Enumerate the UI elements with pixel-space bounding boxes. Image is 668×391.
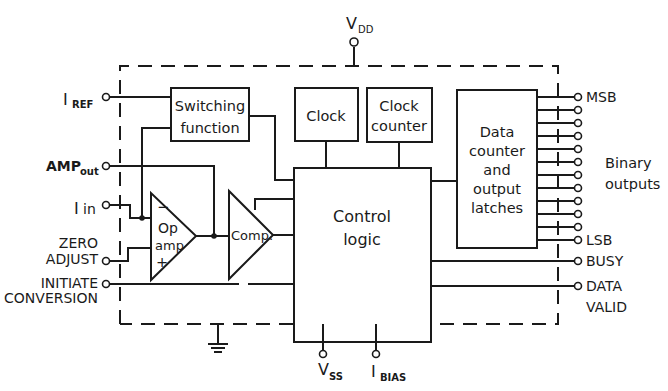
op-amp: − Op amp + xyxy=(151,193,196,280)
lsb-label: LSB xyxy=(586,232,612,248)
svg-text:counter: counter xyxy=(469,143,525,159)
svg-text:Data: Data xyxy=(480,124,515,140)
svg-text:Switching: Switching xyxy=(175,98,245,114)
svg-text:Binary: Binary xyxy=(605,155,652,171)
svg-text:ZERO: ZERO xyxy=(59,235,98,251)
ground-symbol xyxy=(208,324,228,352)
svg-text:out: out xyxy=(80,166,99,177)
svg-text:output: output xyxy=(473,181,521,197)
svg-text:and: and xyxy=(483,162,510,178)
svg-text:V: V xyxy=(318,360,329,379)
svg-text:Comp.: Comp. xyxy=(231,228,273,243)
adc-block-diagram: V DD Switching function Clock Clock coun… xyxy=(0,0,668,391)
data-counter-block: Data counter and output latches xyxy=(457,90,537,248)
svg-text:function: function xyxy=(180,120,239,136)
initiate-conversion-label: INITIATE CONVERSION xyxy=(4,275,98,306)
control-logic-block: Control logic xyxy=(294,168,431,342)
switching-function-block: Switching function xyxy=(171,88,249,141)
svg-text:Op: Op xyxy=(158,220,178,236)
data-valid-label: DATA VALID xyxy=(586,278,627,315)
clock-block: Clock xyxy=(295,88,358,141)
zero-adjust-label: ZERO ADJUST xyxy=(46,235,99,267)
svg-text:AMP: AMP xyxy=(46,158,81,174)
svg-text:ADJUST: ADJUST xyxy=(46,251,99,267)
msb-label: MSB xyxy=(586,89,617,105)
svg-text:I: I xyxy=(74,199,79,218)
iref-label: I REF xyxy=(63,90,93,110)
svg-text:Clock: Clock xyxy=(379,98,419,114)
svg-text:+: + xyxy=(156,254,168,270)
input-pins xyxy=(103,94,110,288)
ampout-label: AMP out xyxy=(46,158,99,177)
vdd-pin: V DD xyxy=(346,14,374,66)
svg-text:CONVERSION: CONVERSION xyxy=(4,290,98,306)
svg-text:Clock: Clock xyxy=(306,108,346,124)
svg-text:in: in xyxy=(83,201,96,217)
clock-counter-block: Clock counter xyxy=(367,88,432,142)
svg-text:REF: REF xyxy=(72,99,93,110)
svg-text:I: I xyxy=(371,362,376,381)
svg-text:Control: Control xyxy=(333,207,391,226)
svg-text:logic: logic xyxy=(343,230,381,249)
svg-text:amp: amp xyxy=(155,238,184,253)
svg-text:SS: SS xyxy=(329,371,343,382)
svg-text:I: I xyxy=(63,90,68,109)
svg-text:INITIATE: INITIATE xyxy=(41,275,98,291)
svg-text:latches: latches xyxy=(471,200,523,216)
svg-text:counter: counter xyxy=(371,118,427,134)
svg-text:outputs: outputs xyxy=(605,176,660,192)
busy-label: BUSY xyxy=(586,253,624,269)
binary-output-lines xyxy=(537,97,574,240)
vdd-label-sub: DD xyxy=(358,24,374,35)
svg-text:BIAS: BIAS xyxy=(380,372,406,383)
iin-label: I in xyxy=(74,199,96,218)
svg-text:−: − xyxy=(157,199,169,215)
output-pins xyxy=(575,94,582,290)
binary-outputs-label: Binary outputs xyxy=(605,155,660,192)
svg-text:DATA: DATA xyxy=(586,278,622,294)
svg-text:VALID: VALID xyxy=(586,299,627,315)
vdd-label-main: V xyxy=(346,14,357,33)
comparator: Comp. xyxy=(229,191,273,279)
